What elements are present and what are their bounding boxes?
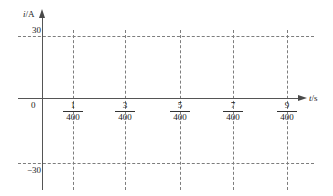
- x-tick-numerator-1: 1: [56, 100, 90, 110]
- x-tick-denominator-2: 400: [108, 112, 142, 122]
- x-tick-label-5: 9 400: [270, 100, 304, 122]
- origin-label: 0: [31, 100, 36, 110]
- gridline-horizontal-negative-30: [18, 163, 314, 164]
- x-tick-numerator-4: 7: [216, 100, 250, 110]
- x-tick-numerator-5: 9: [270, 100, 304, 110]
- y-axis-arrow-icon: [39, 9, 45, 18]
- x-tick-label-4: 7 400: [216, 100, 250, 122]
- x-tick-numerator-3: 5: [163, 100, 197, 110]
- y-tick-label-30: 30: [27, 25, 41, 35]
- x-tick-numerator-2: 3: [108, 100, 142, 110]
- y-axis-line: [42, 16, 43, 190]
- x-tick-label-2: 3 400: [108, 100, 142, 122]
- gridline-horizontal-positive-30: [18, 36, 314, 37]
- x-tick-label-3: 5 400: [163, 100, 197, 122]
- y-tick-label-negative-30: −30: [20, 165, 41, 175]
- x-tick-denominator-4: 400: [216, 112, 250, 122]
- x-tick-denominator-5: 400: [270, 112, 304, 122]
- x-axis-label: t/s: [309, 93, 318, 103]
- x-tick-denominator-1: 400: [56, 112, 90, 122]
- x-axis-line: [18, 98, 304, 99]
- x-tick-label-1: 1 400: [56, 100, 90, 122]
- x-tick-denominator-3: 400: [163, 112, 197, 122]
- y-axis-label: i/A: [23, 9, 35, 19]
- current-vs-time-graph: i/A t/s 30 −30 0 1 400 3 400 5 400 7 400…: [0, 0, 333, 196]
